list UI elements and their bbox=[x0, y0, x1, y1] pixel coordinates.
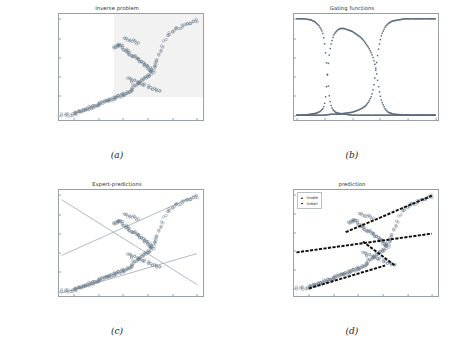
scatter-points bbox=[60, 194, 198, 293]
subplot-d-caption: (d) bbox=[235, 326, 469, 336]
x-axis-tick-label: 0.8 bbox=[404, 296, 411, 297]
y-axis-tick-label: 0.6 bbox=[293, 55, 294, 60]
y-axis-tick-label: 0.0 bbox=[58, 113, 59, 118]
subplot-b-gating-layer bbox=[294, 14, 438, 120]
expert-1-descending bbox=[61, 200, 196, 285]
y-axis-tick-label: 0.0 bbox=[293, 113, 294, 118]
x-axis-tick-label: 0.4 bbox=[355, 296, 362, 297]
y-axis-tick-label: 0.6 bbox=[293, 230, 294, 235]
subplot-b: Gating functions 0.00.20.40.60.81.00.00.… bbox=[235, 0, 469, 175]
y-axis-tick-label: 0.2 bbox=[293, 267, 294, 272]
x-axis-tick-label: 1.0 bbox=[193, 120, 200, 121]
square-marker-icon bbox=[300, 202, 304, 206]
subplot-d-title: prediction bbox=[235, 181, 469, 187]
x-axis-tick-label: 0.2 bbox=[95, 120, 102, 121]
subplot-d-axes-wrap: prediction mode mean 0.00.20.40.60.81.00… bbox=[235, 176, 469, 324]
y-axis-tick-label: 0.8 bbox=[293, 36, 294, 41]
subplot-c: Expert-predictions 0.00.20.40.60.81.00.0… bbox=[0, 176, 234, 351]
x-axis-tick-label: 0.4 bbox=[120, 296, 127, 297]
expert-2-ascending-steep bbox=[61, 195, 196, 256]
subplot-a-scatter-layer bbox=[59, 14, 203, 120]
y-axis-tick-label: 0.2 bbox=[293, 93, 294, 98]
subplot-b-axes-wrap: Gating functions 0.00.20.40.60.81.00.00.… bbox=[235, 0, 469, 148]
figure-panel-grid: Inverse problem 0.00.20.40.60.81.00.00.2… bbox=[0, 0, 469, 351]
y-axis-tick-label: 1.0 bbox=[58, 192, 59, 197]
x-axis-tick-label: 0.0 bbox=[70, 296, 77, 297]
y-axis-tick-label: 0.8 bbox=[58, 212, 59, 217]
subplot-a: Inverse problem 0.00.20.40.60.81.00.00.2… bbox=[0, 0, 234, 175]
x-axis-tick-label: 0.0 bbox=[305, 296, 312, 297]
subplot-c-scatter-and-lines-layer bbox=[59, 190, 203, 296]
legend-item-mean: mean bbox=[300, 201, 318, 207]
x-axis-tick-label: 0.6 bbox=[144, 120, 151, 121]
y-axis-tick-label: 1.0 bbox=[293, 16, 294, 21]
subplot-a-title: Inverse problem bbox=[0, 5, 234, 11]
x-axis-tick-label: 0.6 bbox=[144, 296, 151, 297]
triangle-marker-icon bbox=[300, 196, 304, 200]
y-axis-tick-label: 0.4 bbox=[293, 74, 294, 79]
y-axis-tick-label: 1.0 bbox=[293, 192, 294, 197]
gating-curve-points bbox=[296, 28, 436, 116]
y-axis-tick-label: 0.0 bbox=[293, 286, 294, 291]
y-axis-tick-label: 0.6 bbox=[58, 55, 59, 60]
x-axis-tick-label: 0.2 bbox=[330, 296, 337, 297]
x-axis-tick-label: 0.2 bbox=[321, 120, 328, 121]
subplot-b-plot-area: 0.00.20.40.60.81.00.00.20.40.60.81.0 bbox=[293, 13, 439, 121]
y-axis-tick-label: 0.8 bbox=[58, 36, 59, 41]
y-axis-tick-label: 0.2 bbox=[58, 93, 59, 98]
subplot-c-caption: (c) bbox=[0, 326, 234, 336]
x-axis-tick-label: 0.2 bbox=[95, 296, 102, 297]
subplot-d-legend: mode mean bbox=[297, 192, 322, 209]
scatter-points bbox=[60, 18, 198, 117]
subplot-d-plot-area: mode mean 0.00.20.40.60.81.00.00.20.40.6… bbox=[293, 189, 439, 297]
subplot-b-title: Gating functions bbox=[235, 5, 469, 11]
mode-lower-branch bbox=[309, 266, 385, 289]
gating-curve-points bbox=[296, 18, 436, 116]
legend-label-mean: mean bbox=[307, 201, 318, 207]
x-axis-tick-label: 0.8 bbox=[169, 120, 176, 121]
x-axis-tick-label: 0.0 bbox=[293, 120, 300, 121]
subplot-b-caption: (b) bbox=[235, 150, 469, 160]
y-axis-tick-label: 0.4 bbox=[293, 248, 294, 253]
y-axis-tick-label: 1.0 bbox=[58, 16, 59, 21]
x-axis-tick-label: 1.0 bbox=[428, 296, 435, 297]
subplot-a-plot-area: 0.00.20.40.60.81.00.00.20.40.60.81.0 bbox=[58, 13, 204, 121]
x-axis-tick-label: 0.8 bbox=[404, 120, 411, 121]
x-axis-tick-label: 1.0 bbox=[432, 120, 439, 121]
x-axis-tick-label: 0.6 bbox=[379, 296, 386, 297]
y-axis-tick-label: 0.4 bbox=[58, 74, 59, 79]
x-axis-tick-label: 0.6 bbox=[376, 120, 383, 121]
mode-upper-branch bbox=[346, 196, 432, 233]
y-axis-tick-label: 0.0 bbox=[58, 289, 59, 294]
x-axis-tick-label: 1.0 bbox=[193, 296, 200, 297]
y-axis-tick-label: 0.4 bbox=[58, 250, 59, 255]
y-axis-tick-label: 0.2 bbox=[58, 269, 59, 274]
y-axis-tick-label: 0.8 bbox=[293, 211, 294, 216]
subplot-c-title: Expert-predictions bbox=[0, 181, 234, 187]
subplot-c-axes-wrap: Expert-predictions 0.00.20.40.60.81.00.0… bbox=[0, 176, 234, 324]
x-axis-tick-label: 0.4 bbox=[349, 120, 356, 121]
x-axis-tick-label: 0.8 bbox=[169, 296, 176, 297]
x-axis-tick-label: 0.0 bbox=[70, 120, 77, 121]
x-axis-tick-label: 0.4 bbox=[120, 120, 127, 121]
subplot-c-plot-area: 0.00.20.40.60.81.00.00.20.40.60.81.0 bbox=[58, 189, 204, 297]
subplot-a-axes-wrap: Inverse problem 0.00.20.40.60.81.00.00.2… bbox=[0, 0, 234, 148]
subplot-a-caption: (a) bbox=[0, 150, 234, 160]
y-axis-tick-label: 0.6 bbox=[58, 231, 59, 236]
subplot-d: prediction mode mean 0.00.20.40.60.81.00… bbox=[235, 176, 469, 351]
gating-curve-points bbox=[296, 18, 436, 116]
